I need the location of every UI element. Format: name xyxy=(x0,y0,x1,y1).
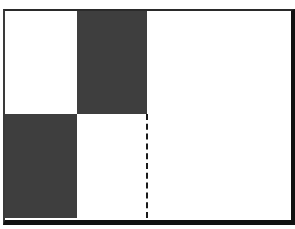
vertical-dashed-divider xyxy=(146,114,148,218)
bottom-left-dark-block xyxy=(5,114,77,218)
top-middle-dark-block xyxy=(77,11,147,114)
